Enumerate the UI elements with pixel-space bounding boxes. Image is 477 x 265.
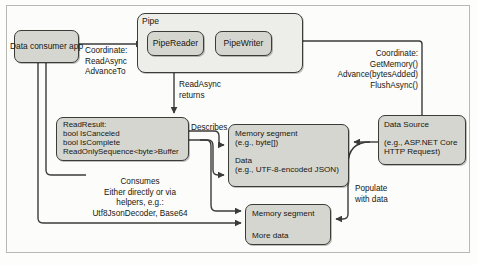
node-memory-segment-2[interactable]: Memory segment More data xyxy=(245,204,331,245)
node-memory-segment-1[interactable]: Memory segment (e.g., byte[]) Data (e.g.… xyxy=(228,124,349,187)
memory-segment-1-subtitle: (e.g., byte[]) xyxy=(235,138,278,147)
data-consumer-app-label: Data consumer app xyxy=(10,42,83,51)
edge-label-coordinate-read: Coordinate: ReadAsync AdvanceTo xyxy=(85,46,127,78)
consumes-line-3: helpers, e.g.: xyxy=(62,198,218,209)
consumes-line-1: Consumes xyxy=(62,177,218,188)
coordinate-read-line-2: ReadAsync xyxy=(85,57,127,68)
node-data-consumer-app[interactable]: Data consumer app xyxy=(14,30,79,63)
read-async-returns-line-1: ReadAsync xyxy=(179,80,221,91)
consumes-line-4: Utf8JsonDecoder, Base64 xyxy=(62,209,218,220)
coordinate-write-line-2: GetMemory() xyxy=(306,60,418,71)
read-result-field-2: ReadOnlySequence<byte>Buffer xyxy=(63,148,179,157)
populate-line-1: Populate xyxy=(355,184,388,195)
describes-line-1: Describes xyxy=(191,123,227,134)
memory-segment-1-data-subtitle: (e.g., UTF-8-encoded JSON) xyxy=(235,165,339,174)
read-async-returns-line-2: returns xyxy=(179,91,221,102)
edge-label-populate: Populate with data xyxy=(355,184,388,205)
edge-label-describes: Describes xyxy=(191,123,227,134)
coordinate-write-line-1: Coordinate: xyxy=(306,49,418,60)
pipe-reader-label: PipeReader xyxy=(153,39,198,49)
memory-segment-1-data-title: Data xyxy=(235,156,252,165)
diagram-canvas: Data consumer app Pipe PipeReader PipeWr… xyxy=(0,0,477,265)
data-source-detail-line-2: HTTP Request) xyxy=(384,147,440,156)
node-data-source[interactable]: Data Source (e.g., ASP.NET Core HTTP Req… xyxy=(378,115,466,165)
pipe-writer-label: PipeWriter xyxy=(224,39,264,49)
node-pipe-reader[interactable]: PipeReader xyxy=(147,31,204,56)
coordinate-write-line-4: FlushAsync() xyxy=(306,81,418,92)
memory-segment-2-title: Memory segment xyxy=(252,209,315,218)
consumes-line-2: Either directly or via xyxy=(62,188,218,199)
node-pipe-writer[interactable]: PipeWriter xyxy=(215,31,272,56)
coordinate-write-line-3: Advance(bytesAdded) xyxy=(306,70,418,81)
node-read-result[interactable]: ReadResult: bool IsCanceled bool IsCompl… xyxy=(56,117,189,161)
coordinate-read-line-3: AdvanceTo xyxy=(85,67,127,78)
pipe-label: Pipe xyxy=(142,16,159,26)
populate-line-2: with data xyxy=(355,195,388,206)
memory-segment-2-subtitle: More data xyxy=(252,231,288,240)
edge-label-read-async-returns: ReadAsync returns xyxy=(179,80,221,101)
data-source-title: Data Source xyxy=(384,120,429,129)
edge-label-coordinate-write: Coordinate: GetMemory() Advance(bytesAdd… xyxy=(306,49,418,91)
data-source-detail-line-1: (e.g., ASP.NET Core xyxy=(384,138,457,147)
edge-label-consumes: Consumes Either directly or via helpers,… xyxy=(62,177,218,219)
coordinate-read-line-1: Coordinate: xyxy=(85,46,127,57)
memory-segment-1-title: Memory segment xyxy=(235,129,298,138)
